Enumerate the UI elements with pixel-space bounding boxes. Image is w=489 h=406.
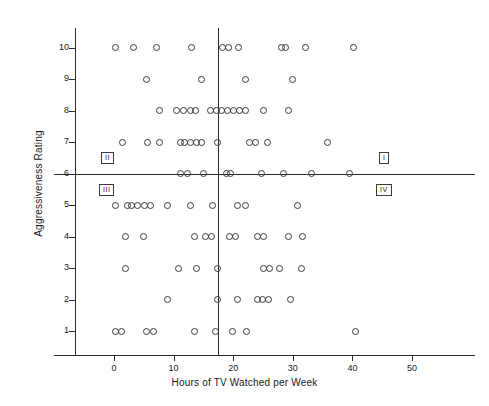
y-tick-label: 3 [41,263,69,273]
data-point [130,44,137,51]
quadrant-label-iii: III [99,184,114,196]
data-point [209,202,216,209]
y-tick-mark [69,300,75,301]
data-point [122,265,129,272]
x-tick-label: 20 [218,363,248,373]
data-point [352,328,359,335]
y-tick-label-text: 9 [47,74,69,83]
x-tick-mark [293,355,294,361]
data-point [177,170,184,177]
x-tick-mark [352,355,353,361]
data-point [242,202,249,209]
data-point [285,233,292,240]
x-tick-label: 30 [278,363,308,373]
data-point [156,107,163,114]
data-point [140,233,147,240]
data-point [276,265,283,272]
data-point [214,296,221,303]
data-point [266,265,273,272]
y-tick-label-text: 8 [47,106,69,115]
data-point [242,76,249,83]
y-tick-mark [69,237,75,238]
data-point [200,170,207,177]
data-point [191,233,198,240]
data-point [164,296,171,303]
data-point [324,139,331,146]
data-point [150,328,157,335]
data-point [243,328,250,335]
x-axis-label: Hours of TV Watched per Week [0,377,489,388]
data-point [118,328,125,335]
data-point [212,328,219,335]
data-point [242,107,249,114]
data-point [193,265,200,272]
y-tick-label-text: 5 [47,200,69,209]
y-tick-label: 6 [41,169,69,179]
data-point [225,44,232,51]
data-point [214,139,221,146]
data-point [143,76,150,83]
y-tick-label: 5 [41,200,69,210]
data-point [227,170,234,177]
y-tick-label: 9 [41,74,69,84]
y-tick-label: 4 [41,232,69,242]
x-tick-label: 0 [99,363,129,373]
data-point [112,44,119,51]
quadrant-label-ii: II [101,152,114,164]
data-point [234,296,241,303]
data-point [285,107,292,114]
data-point [187,202,194,209]
y-tick-mark [69,48,75,49]
y-axis-line [75,28,76,355]
y-tick-label-text: 7 [47,137,69,146]
y-tick-label: 7 [41,137,69,147]
data-point [302,44,309,51]
y-tick-label: 2 [41,295,69,305]
data-point [260,107,267,114]
data-point [289,76,296,83]
scatter-plot-figure: 12345678910 01020304050 I II III IV Hour… [0,0,489,406]
y-tick-mark [69,205,75,206]
y-tick-label-text: 10 [47,43,69,52]
x-tick-mark [412,355,413,361]
data-point [229,328,236,335]
y-tick-mark [69,174,75,175]
data-point [260,233,267,240]
data-point [144,139,151,146]
data-point [188,44,195,51]
data-point [298,265,305,272]
y-tick-label-text: 3 [47,263,69,272]
data-point [175,265,182,272]
data-point [308,170,315,177]
y-tick-label: 1 [41,326,69,336]
quadrant-label-i: I [379,152,389,164]
data-point [264,139,271,146]
data-point [232,233,239,240]
quadrant-label-iv: IV [376,184,392,196]
data-point [265,296,272,303]
y-tick-label: 8 [41,106,69,116]
data-point [191,328,198,335]
data-point [214,265,221,272]
y-tick-mark [69,331,75,332]
data-point [180,107,187,114]
y-axis-label: Aggressiveness Rating [33,84,44,284]
data-point [198,139,205,146]
data-point [112,202,119,209]
data-point [198,76,205,83]
data-point [184,170,191,177]
x-tick-mark [233,355,234,361]
x-tick-mark [174,355,175,361]
x-axis-label-text: Hours of TV Watched per Week [171,377,317,388]
x-tick-label: 50 [397,363,427,373]
vertical-reference-line [218,28,219,355]
data-point [294,202,301,209]
x-tick-mark [114,355,115,361]
data-point [287,296,294,303]
data-point [234,202,241,209]
y-tick-label: 10 [41,43,69,53]
y-tick-label-text: 2 [47,295,69,304]
data-point [122,233,129,240]
data-point [258,170,265,177]
data-point [147,202,154,209]
